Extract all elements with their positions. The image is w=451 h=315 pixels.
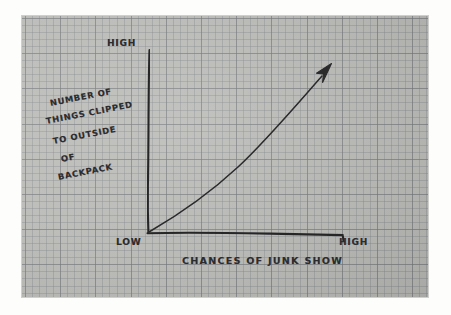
x-axis-label: CHANCES OF JUNK SHOW xyxy=(182,255,343,266)
y-axis-low-tick-label: LOW xyxy=(116,237,141,247)
y-axis-high-tick-label: HIGH xyxy=(107,38,136,48)
y-axis-label-line-3: TO OUTSIDE xyxy=(52,124,117,146)
y-axis-label: NUMBER OF THINGS CLIPPED TO OUTSIDE OF B… xyxy=(44,88,144,188)
photo-canvas: HIGH LOW HIGH CHANCES OF JUNK SHOW NUMBE… xyxy=(0,0,451,315)
y-axis-label-line-5: BACKPACK xyxy=(57,161,113,181)
x-axis-high-tick-label: HIGH xyxy=(339,237,368,247)
y-axis-label-line-4: OF xyxy=(60,151,76,164)
